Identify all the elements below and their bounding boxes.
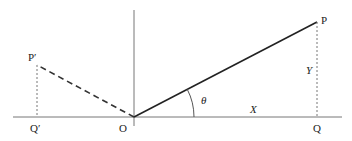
segment-op	[134, 22, 317, 117]
label-theta: θ	[201, 94, 207, 106]
label-p: P	[321, 14, 327, 26]
label-y: Y	[306, 64, 314, 76]
label-q: Q	[313, 122, 321, 134]
label-q-prime: Q′	[30, 122, 40, 134]
diagram-canvas: P Q P′ Q′ O θ X Y	[0, 0, 352, 141]
angle-theta-arc	[187, 89, 194, 117]
label-p-prime: P′	[28, 51, 37, 63]
segment-op-prime	[37, 65, 134, 117]
label-origin: O	[119, 122, 127, 134]
label-x: X	[249, 103, 258, 115]
